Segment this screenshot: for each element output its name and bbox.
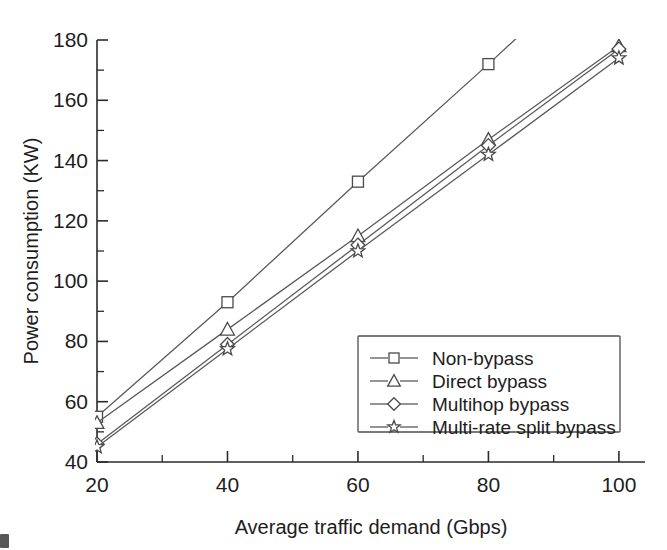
scan-artifact	[0, 534, 9, 548]
y-tick-group: 406080100120140160180	[53, 28, 108, 473]
marker-triangle	[221, 322, 235, 335]
y-tick-label: 60	[65, 390, 88, 413]
y-tick-label: 180	[53, 28, 88, 51]
legend-label: Multi-rate split bypass	[432, 417, 616, 438]
y-tick-label: 80	[65, 329, 88, 352]
x-tick-label: 40	[216, 473, 239, 496]
y-tick-label: 160	[53, 88, 88, 111]
marker-square	[352, 176, 363, 187]
legend-label: Multihop bypass	[432, 394, 569, 415]
y-tick-label: 40	[65, 450, 88, 473]
x-tick-label: 20	[85, 473, 108, 496]
marker-square	[483, 59, 494, 70]
y-tick-label: 140	[53, 149, 88, 172]
marker-square	[222, 297, 233, 308]
legend[interactable]: Non-bypassDirect bypassMultihop bypassMu…	[358, 336, 620, 438]
marker-square	[389, 353, 399, 363]
x-tick-label: 80	[477, 473, 500, 496]
legend-label: Non-bypass	[432, 348, 533, 369]
y-axis-title: Power consumption (KW)	[20, 138, 42, 365]
x-axis-title: Average traffic demand (Gbps)	[235, 516, 508, 538]
y-tick-label: 120	[53, 209, 88, 232]
power-consumption-line-chart: 406080100120140160180 20406080100 Averag…	[0, 0, 667, 550]
chart-figure: 406080100120140160180 20406080100 Averag…	[0, 0, 667, 550]
x-tick-group: 20406080100	[85, 451, 636, 496]
legend-label: Direct bypass	[432, 371, 547, 392]
x-tick-label: 60	[346, 473, 369, 496]
y-tick-label: 100	[53, 269, 88, 292]
x-tick-label: 100	[601, 473, 636, 496]
